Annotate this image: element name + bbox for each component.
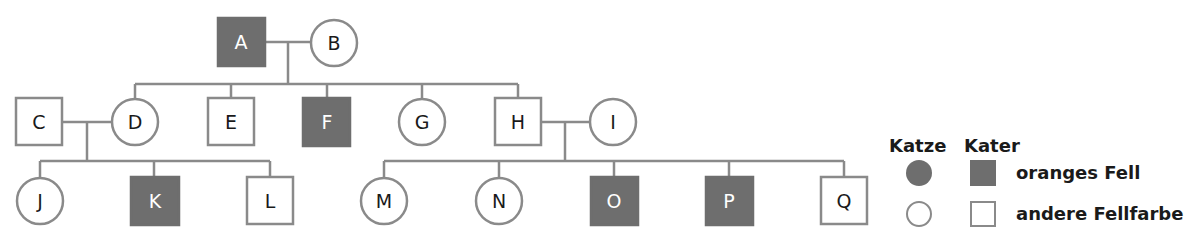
label-g: G: [415, 111, 430, 133]
label-h: H: [511, 111, 525, 133]
individual-i: I: [590, 99, 636, 145]
individual-b: B: [311, 20, 357, 66]
label-p: P: [723, 190, 734, 212]
legend: Katze Kater oranges Fell andere Fellfarb…: [889, 135, 1183, 226]
label-d: D: [128, 111, 143, 133]
individual-j: J: [17, 178, 63, 224]
individual-c: C: [16, 98, 62, 145]
label-o: O: [607, 190, 622, 212]
legend-header-female: Katze: [889, 135, 946, 156]
label-f: F: [322, 111, 333, 133]
individual-m: M: [361, 178, 407, 224]
individual-e: E: [208, 98, 254, 145]
individual-l: L: [247, 177, 293, 224]
label-l: L: [265, 190, 276, 212]
label-j: J: [36, 190, 43, 212]
label-i: I: [610, 111, 616, 133]
individual-o: O: [591, 177, 638, 225]
individual-f: F: [303, 98, 350, 146]
legend-header-male: Kater: [964, 135, 1020, 156]
label-b: B: [327, 32, 340, 54]
label-n: N: [492, 190, 506, 212]
label-m: M: [376, 190, 392, 212]
legend-male-other-icon: [971, 202, 995, 226]
individual-a: A: [218, 18, 265, 66]
label-k: K: [149, 190, 162, 212]
legend-label-orange: oranges Fell: [1016, 162, 1140, 183]
label-q: Q: [837, 190, 852, 212]
label-a: A: [235, 31, 248, 53]
legend-female-orange-icon: [906, 160, 932, 186]
individual-g: G: [399, 99, 445, 145]
individual-n: N: [476, 178, 522, 224]
legend-label-other: andere Fellfarbe: [1016, 203, 1183, 224]
pedigree-diagram: A B C D E F G H I J: [0, 0, 1190, 238]
label-e: E: [225, 111, 237, 133]
individual-k: K: [131, 177, 179, 225]
individual-q: Q: [821, 177, 867, 224]
individual-p: P: [706, 177, 753, 225]
individual-d: D: [112, 99, 158, 145]
legend-female-other-icon: [907, 202, 931, 226]
individual-h: H: [495, 98, 541, 145]
legend-male-orange-icon: [970, 160, 996, 186]
label-c: C: [32, 111, 45, 133]
